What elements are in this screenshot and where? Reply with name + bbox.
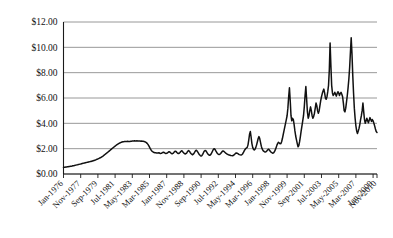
y-axis-tick-label: $0.00 [36, 169, 58, 179]
y-axis-tick-labels: $0.00$2.00$4.00$6.00$8.00$10.00$12.00 [31, 17, 57, 179]
y-axis-tick-label: $2.00 [36, 144, 58, 154]
y-axis-tick-label: $8.00 [36, 68, 58, 78]
y-axis-tick-label: $12.00 [31, 17, 57, 27]
x-axis-tick-marks [64, 174, 378, 178]
chart-figure: $0.00$2.00$4.00$6.00$8.00$10.00$12.00 Ja… [0, 0, 393, 238]
price-line-chart: $0.00$2.00$4.00$6.00$8.00$10.00$12.00 Ja… [0, 0, 393, 238]
y-axis-tick-label: $4.00 [36, 119, 58, 129]
y-axis-tick-label: $10.00 [31, 43, 57, 53]
x-axis-tick-labels: Jan-1976Nov-1977Sep-1979Jul-1981May-1983… [36, 178, 379, 211]
y-axis-tick-label: $6.00 [36, 93, 58, 103]
price-series-line [64, 38, 378, 168]
